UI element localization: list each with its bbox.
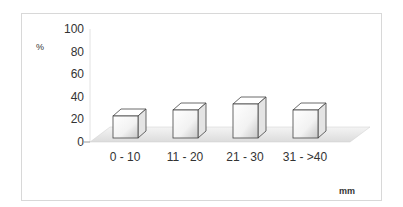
x-tick-21-30: 21 - 30 <box>215 150 275 164</box>
x-tick-31-40: 31 - >40 <box>275 150 335 164</box>
x-tick-11-20: 11 - 20 <box>155 150 215 164</box>
x-tick-0-10: 0 - 10 <box>95 150 155 164</box>
bar-31-40 <box>293 103 326 138</box>
bar-0-10 <box>113 109 146 138</box>
chart-plot-area <box>0 0 403 207</box>
bar-21-30 <box>233 97 266 138</box>
bar-11-20 <box>173 103 206 138</box>
x-axis-unit: mm <box>339 186 355 196</box>
